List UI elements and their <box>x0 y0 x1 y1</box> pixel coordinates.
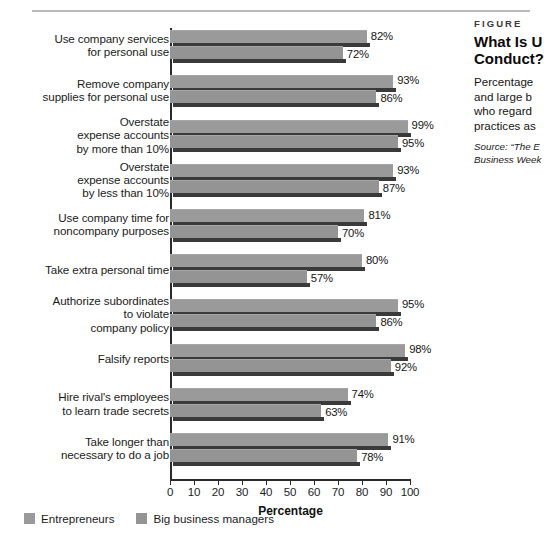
x-axis-tick <box>314 480 315 485</box>
bar-shadow <box>173 372 394 376</box>
bar-value-label: 57% <box>311 272 333 284</box>
bar-group: Falsify reports98%92% <box>0 344 440 378</box>
bar-group: Hire rival's employeesto learn trade sec… <box>0 388 440 422</box>
category-label-line: by more than 10% <box>9 142 169 155</box>
category-label: Authorize subordinatesto violatecompany … <box>9 294 169 334</box>
figure-container: 0102030405060708090100Use company servic… <box>0 0 546 552</box>
bar-fill <box>170 433 388 446</box>
bar-value-label: 87% <box>383 182 405 194</box>
bar-group: Authorize subordinatesto violatecompany … <box>0 299 440 333</box>
category-label-line: Take extra personal time <box>9 263 169 276</box>
bar-fill <box>170 135 398 148</box>
bar-fill <box>170 164 393 177</box>
figure-description-line: who regard <box>474 104 546 119</box>
bar-value-label: 92% <box>395 361 417 373</box>
bar-chart: 0102030405060708090100Use company servic… <box>0 20 440 490</box>
bar-value-label: 81% <box>368 209 390 221</box>
x-axis-tick <box>218 480 219 485</box>
figure-description-line: Percentage <box>474 75 546 90</box>
x-axis-tick <box>362 480 363 485</box>
bar-value-label: 99% <box>412 119 434 131</box>
bar-shadow <box>173 59 346 63</box>
bar-entrepreneurs <box>170 209 364 222</box>
bar-fill <box>170 75 393 88</box>
category-label-line: by less than 10% <box>9 186 169 199</box>
category-label: Use company servicesfor personal use <box>9 32 169 59</box>
bar-fill <box>170 180 379 193</box>
bar-fill <box>170 254 362 267</box>
bar-shadow <box>173 193 382 197</box>
x-axis-tick <box>290 480 291 485</box>
figure-description: Percentage and large b who regard practi… <box>474 75 546 133</box>
bar-entrepreneurs <box>170 164 393 177</box>
bar-fill <box>170 270 307 283</box>
bar-value-label: 93% <box>397 74 419 86</box>
category-label-line: for personal use <box>9 45 169 58</box>
bar-value-label: 86% <box>380 316 402 328</box>
bar-group: Remove companysupplies for personal use9… <box>0 75 440 109</box>
legend-swatch-icon <box>136 513 147 524</box>
bar-fill <box>170 344 405 357</box>
category-label-line: expense accounts <box>9 173 169 186</box>
bar-value-label: 95% <box>402 298 424 310</box>
bar-entrepreneurs <box>170 299 398 312</box>
category-label-line: Hire rival's employees <box>9 390 169 403</box>
category-label-line: supplies for personal use <box>9 90 169 103</box>
bar-shadow <box>173 417 324 421</box>
legend-item-entrepreneurs: Entrepreneurs <box>24 512 114 525</box>
figure-description-line: practices as <box>474 119 546 134</box>
caption-panel: FIGURE What Is U Conduct? Percentage and… <box>474 18 546 166</box>
bar-big-business-managers <box>170 225 338 238</box>
x-axis-tick <box>266 480 267 485</box>
figure-description-line: and large b <box>474 90 546 105</box>
bar-big-business-managers <box>170 314 376 327</box>
bar-value-label: 98% <box>409 343 431 355</box>
bar-fill <box>170 209 364 222</box>
bar-value-label: 91% <box>392 433 414 445</box>
chart-legend: Entrepreneurs Big business managers <box>24 512 274 525</box>
category-label: Take extra personal time <box>9 263 169 276</box>
figure-title-line: What Is U <box>474 33 546 50</box>
category-label-line: Overstate <box>9 160 169 173</box>
legend-label: Entrepreneurs <box>41 512 114 525</box>
bar-big-business-managers <box>170 404 321 417</box>
category-label-line: Authorize subordinates <box>9 294 169 307</box>
bar-big-business-managers <box>170 90 376 103</box>
bar-shadow <box>173 283 310 287</box>
bar-value-label: 86% <box>380 92 402 104</box>
bar-value-label: 95% <box>402 137 424 149</box>
category-label-line: expense accounts <box>9 128 169 141</box>
bar-big-business-managers <box>170 180 379 193</box>
bar-entrepreneurs <box>170 30 367 43</box>
bar-shadow <box>173 148 401 152</box>
bar-value-label: 78% <box>361 451 383 463</box>
bar-group: Overstateexpense accountsby more than 10… <box>0 120 440 154</box>
category-label: Overstateexpense accountsby more than 10… <box>9 115 169 155</box>
bar-entrepreneurs <box>170 388 348 401</box>
bar-fill <box>170 359 391 372</box>
x-axis-tick <box>338 480 339 485</box>
bar-fill <box>170 299 398 312</box>
figure-source-line: Source: “The E <box>474 141 546 153</box>
category-label-line: to violate <box>9 307 169 320</box>
category-label: Overstateexpense accountsby less than 10… <box>9 160 169 200</box>
figure-source: Source: “The E Business Week <box>474 141 546 166</box>
x-axis-tick <box>386 480 387 485</box>
bar-group: Take extra personal time80%57% <box>0 254 440 288</box>
category-label-line: Use company services <box>9 32 169 45</box>
bar-entrepreneurs <box>170 344 405 357</box>
bar-value-label: 93% <box>397 164 419 176</box>
category-label-line: Falsify reports <box>9 352 169 365</box>
bar-big-business-managers <box>170 46 343 59</box>
plot-area: 0102030405060708090100Use company servic… <box>0 20 440 470</box>
bar-fill <box>170 90 376 103</box>
bar-fill <box>170 225 338 238</box>
category-label: Take longer thannecessary to do a job <box>9 435 169 462</box>
category-label-line: Take longer than <box>9 435 169 448</box>
category-label-line: Overstate <box>9 115 169 128</box>
bar-value-label: 80% <box>366 254 388 266</box>
bar-big-business-managers <box>170 449 357 462</box>
bar-entrepreneurs <box>170 433 388 446</box>
legend-swatch-icon <box>24 513 35 524</box>
category-label-line: to learn trade secrets <box>9 404 169 417</box>
